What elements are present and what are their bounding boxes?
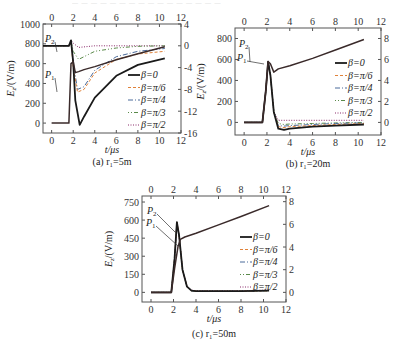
x-tick-label: 0 — [149, 304, 154, 315]
legend-entry: β=0 — [252, 231, 270, 242]
series-line — [151, 222, 269, 292]
annotation-p1: P1 — [236, 52, 247, 65]
y-axis-label: Ez/(V/m) — [195, 63, 208, 100]
panel-caption: (a) r₁=5m — [93, 156, 132, 168]
x-top-tick-label: 10 — [154, 12, 164, 23]
series-line — [244, 62, 364, 127]
y-left-tick-label: 800 — [217, 33, 232, 44]
x-top-tick-label: 4 — [194, 184, 199, 195]
x-top-tick-label: 0 — [242, 16, 247, 27]
chart-panel-b: 002244668810101212020040060080002468Ez/(… — [195, 16, 389, 170]
x-top-tick-label: 10 — [353, 16, 363, 27]
legend-entry: β=π/3 — [347, 95, 373, 106]
y-right-tick-label: 2 — [384, 96, 389, 107]
y-right-tick-label: 8 — [384, 33, 389, 44]
x-top-tick-label: 0 — [49, 12, 54, 23]
y-right-tick-label: 0 — [384, 117, 389, 128]
legend-entry: β=π/4 — [252, 256, 278, 267]
x-axis-label: t/μs — [207, 313, 222, 324]
y-right-tick-label: 4 — [384, 75, 389, 86]
y-right-tick-label: 4 — [184, 19, 189, 30]
legend-entry: β=π/6 — [140, 82, 166, 93]
x-tick-label: 10 — [154, 135, 164, 146]
annotation-p1: P1 — [145, 217, 156, 230]
legend: β=0β=π/6β=π/4β=π/3β=π/2 — [240, 231, 278, 292]
y-left-tick-label: 1000 — [20, 19, 40, 30]
series-line — [151, 222, 269, 292]
x-top-tick-label: 10 — [259, 184, 269, 195]
x-top-tick-label: 6 — [310, 16, 315, 27]
x-tick-label: 12 — [376, 137, 386, 148]
y-left-tick-label: 600 — [124, 215, 139, 226]
panel-caption: (c) r₁=50m — [192, 328, 236, 340]
chart-panel-c: 002244668810101212015030045060075002468E… — [103, 184, 294, 340]
y-axis-label: Ez/(V/m) — [5, 60, 18, 97]
series-line — [151, 222, 269, 292]
x-tick-label: 4 — [287, 137, 292, 148]
x-tick-label: 10 — [353, 137, 363, 148]
x-tick-label: 8 — [333, 137, 338, 148]
y-left-tick-label: 400 — [25, 78, 40, 89]
y-left-tick-label: 800 — [25, 38, 40, 49]
x-top-tick-label: 4 — [287, 16, 292, 27]
legend-entry: β=π/6 — [347, 70, 373, 81]
y-left-tick-label: 0 — [134, 287, 139, 298]
x-tick-label: 4 — [194, 304, 199, 315]
y-left-tick-label: 150 — [124, 269, 139, 280]
legend-entry: β=π/3 — [140, 107, 166, 118]
x-top-tick-label: 12 — [376, 16, 386, 27]
y-left-tick-label: 200 — [217, 96, 232, 107]
y-right-tick-label: 6 — [384, 54, 389, 65]
legend-entry: β=π/4 — [140, 94, 166, 105]
series-line-ez — [244, 40, 364, 123]
legend-entry: β=π/2 — [347, 107, 373, 118]
y-left-tick-label: 300 — [124, 251, 139, 262]
legend-entry: β=0 — [140, 69, 158, 80]
legend: β=0β=π/6β=π/4β=π/3β=π/2 — [128, 69, 166, 130]
y-right-tick-label: -8 — [184, 84, 192, 95]
x-top-tick-label: 8 — [333, 16, 338, 27]
x-top-tick-label: 6 — [114, 12, 119, 23]
x-top-tick-label: 2 — [71, 12, 76, 23]
y-axis-label: Ez/(V/m) — [103, 231, 116, 268]
x-top-tick-label: 8 — [135, 12, 140, 23]
legend-entry: β=π/3 — [252, 269, 278, 280]
y-right-tick-label: 4 — [289, 242, 294, 253]
y-left-tick-label: 0 — [227, 117, 232, 128]
legend-entry: β=π/2 — [252, 281, 278, 292]
x-top-tick-label: 6 — [216, 184, 221, 195]
annotation-p2: P2 — [238, 38, 249, 51]
x-top-tick-label: 2 — [264, 16, 269, 27]
y-right-tick-label: 8 — [289, 196, 294, 207]
x-tick-label: 4 — [92, 135, 97, 146]
legend-entry: β=π/2 — [140, 119, 166, 130]
y-right-tick-label: -16 — [184, 128, 197, 139]
x-tick-label: 10 — [259, 304, 269, 315]
x-top-tick-label: 0 — [149, 184, 154, 195]
legend-entry: β=0 — [347, 57, 365, 68]
x-tick-label: 2 — [171, 304, 176, 315]
y-right-tick-label: -12 — [184, 106, 197, 117]
panel-caption: (b) r₁=20m — [286, 158, 331, 170]
x-tick-label: 8 — [239, 304, 244, 315]
x-tick-label: 0 — [49, 135, 54, 146]
x-tick-label: 8 — [135, 135, 140, 146]
y-right-tick-label: 2 — [289, 264, 294, 275]
y-left-tick-label: 600 — [217, 54, 232, 65]
figure-canvas: 00224466881010121202004006008001000-16-1… — [0, 0, 397, 352]
x-tick-label: 2 — [71, 135, 76, 146]
y-right-tick-label: 0 — [184, 40, 189, 51]
y-left-tick-label: 600 — [25, 58, 40, 69]
x-tick-label: 12 — [281, 304, 291, 315]
x-tick-label: 2 — [264, 137, 269, 148]
x-top-tick-label: 12 — [281, 184, 291, 195]
x-top-tick-label: 4 — [92, 12, 97, 23]
y-left-tick-label: 450 — [124, 233, 139, 244]
y-left-tick-label: 200 — [25, 98, 40, 109]
x-axis-label: t/μs — [105, 144, 120, 155]
y-left-tick-label: 750 — [124, 197, 139, 208]
x-top-tick-label: 8 — [239, 184, 244, 195]
x-tick-label: 0 — [242, 137, 247, 148]
series-line — [244, 62, 364, 125]
y-right-tick-label: 6 — [289, 219, 294, 230]
